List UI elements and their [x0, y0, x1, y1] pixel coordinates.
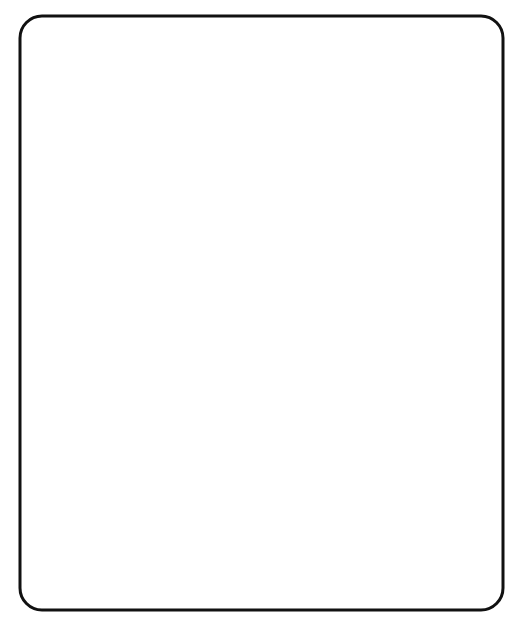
outer-frame — [20, 16, 503, 610]
scan-design-figure — [0, 0, 517, 624]
panel-driven-contention — [43, 27, 491, 78]
